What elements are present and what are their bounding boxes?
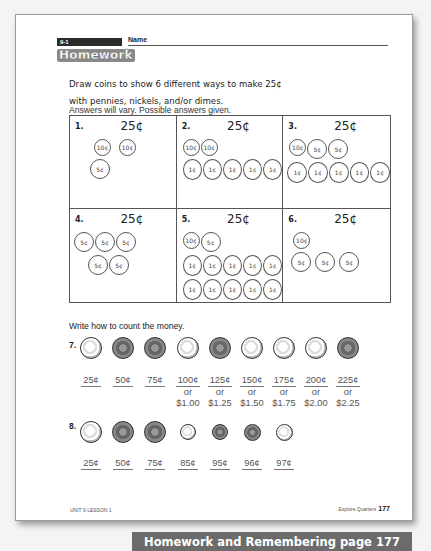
name-line [128,45,388,46]
nickel-drawing: 5¢ [339,252,359,272]
penny-drawing: 1¢ [223,255,242,276]
target-amount: 25¢ [70,119,176,133]
quarter-coin-icon [273,337,295,359]
dime-drawing: 10¢ [289,139,306,156]
footer-lesson-title: Explore Quarters177 [339,505,390,512]
penny-drawing: 1¢ [203,255,222,276]
or-label: or [329,387,367,398]
lesson-number: 9-1 [57,38,122,46]
instruction-line-1: Draw coins to show 6 different ways to m… [69,79,282,89]
quarter-coin-icon [337,337,359,359]
cents-value: 200¢ [304,375,329,387]
nickel-drawing: 5¢ [328,139,348,159]
dime-drawing: 10¢ [293,232,310,249]
dime-coin-icon [180,424,196,440]
quarter-coin-icon [177,337,199,359]
cents-value: 75¢ [145,375,165,387]
quarter-coin-icon [209,337,231,359]
penny-drawing: 1¢ [203,279,222,300]
target-amount: 25¢ [177,119,283,133]
dime-drawing: 10¢ [201,139,218,156]
count-money-label: Write how to count the money. [69,321,184,331]
nickel-drawing: 5¢ [90,159,110,179]
target-amount: 25¢ [283,119,390,133]
penny-drawing: 1¢ [329,162,349,183]
nickel-drawing: 5¢ [95,232,115,252]
nickel-drawing: 5¢ [116,232,136,252]
target-amount: 25¢ [283,212,390,226]
problem-7-number: 7. [69,340,76,350]
penny-coin-icon [244,424,261,441]
nickel-drawing: 5¢ [74,232,94,252]
quarter-coin-icon [144,337,166,359]
penny-drawing: 1¢ [243,279,262,300]
cents-value: 225¢ [336,375,361,387]
cents-value: 25¢ [81,375,101,387]
nickel-drawing: 5¢ [109,255,129,275]
footer-unit-lesson: UNIT 9 LESSON 1 [70,507,112,513]
cents-value: 95¢ [210,458,230,470]
quarter-coin-icon [112,337,134,359]
footer-title: Explore Quarters [339,506,377,512]
penny-drawing: 1¢ [183,255,202,276]
quarter-coin-icon [305,337,327,359]
problem-cell-3: 3.25¢10¢5¢5¢1¢1¢1¢1¢1¢ [283,116,390,209]
target-amount: 25¢ [70,212,176,226]
quarter-coin-icon [80,337,102,359]
problem-cell-1: 1.25¢10¢10¢5¢ [70,116,177,209]
penny-drawing: 1¢ [350,162,370,183]
page-number: 177 [378,505,390,512]
instruction-line-3: Answers will vary. Possible answers give… [69,105,231,115]
problem-cell-6: 6.25¢10¢5¢5¢5¢ [283,209,390,302]
cents-value: 100¢ [176,375,201,387]
penny-drawing: 1¢ [263,159,282,180]
penny-drawing: 1¢ [183,279,202,300]
drawn-coins: 5¢5¢5¢5¢5¢ [70,232,176,278]
cents-value: 150¢ [240,375,265,387]
nickel-drawing: 5¢ [307,139,327,159]
count-answer: 225¢or$2.25 [329,375,367,409]
quarter-coin-icon [241,337,263,359]
problem-cell-4: 4.25¢5¢5¢5¢5¢5¢ [70,209,177,302]
dime-drawing: 10¢ [119,139,136,156]
problem-8-number: 8. [69,421,76,431]
drawn-coins: 10¢5¢1¢1¢1¢1¢1¢1¢1¢1¢1¢1¢ [177,232,283,303]
cents-value: 50¢ [113,375,133,387]
penny-drawing: 1¢ [223,279,242,300]
penny-drawing: 1¢ [287,162,307,183]
penny-drawing: 1¢ [370,162,390,183]
cents-value: 25¢ [81,458,101,470]
cents-value: 175¢ [272,375,297,387]
cents-value: 85¢ [178,458,198,470]
cents-value: 50¢ [113,458,133,470]
problem-cell-5: 5.25¢10¢5¢1¢1¢1¢1¢1¢1¢1¢1¢1¢1¢ [177,209,284,302]
penny-drawing: 1¢ [183,159,202,180]
dime-drawing: 10¢ [183,139,200,156]
penny-drawing: 1¢ [243,159,262,180]
penny-drawing: 1¢ [263,279,282,300]
nickel-drawing: 5¢ [201,232,221,252]
drawn-coins: 10¢10¢5¢ [70,139,176,182]
cents-value: 96¢ [242,458,262,470]
drawn-coins: 10¢5¢5¢5¢ [283,232,390,275]
coin-drawing-grid: 1.25¢10¢10¢5¢2.25¢10¢10¢1¢1¢1¢1¢1¢3.25¢1… [69,115,391,303]
dime-coin-icon [212,424,228,440]
dime-drawing: 10¢ [183,232,200,249]
cents-value: 125¢ [208,375,233,387]
nickel-drawing: 5¢ [88,255,108,275]
penny-drawing: 1¢ [203,159,222,180]
penny-drawing: 1¢ [243,255,262,276]
penny-drawing: 1¢ [308,162,328,183]
nickel-drawing: 5¢ [315,252,335,272]
homework-logo: Homework [57,49,135,62]
drawn-coins: 10¢5¢5¢1¢1¢1¢1¢1¢ [283,139,390,186]
penny-drawing: 1¢ [263,255,282,276]
penny-coin-icon [276,424,293,441]
count-answer: 97¢ [265,458,303,470]
quarter-coin-icon [144,421,166,443]
drawn-coins: 10¢10¢1¢1¢1¢1¢1¢ [177,139,283,183]
penny-drawing: 1¢ [223,159,242,180]
quarter-coin-icon [80,421,102,443]
quarter-coin-icon [112,421,134,443]
cents-value: 75¢ [145,458,165,470]
